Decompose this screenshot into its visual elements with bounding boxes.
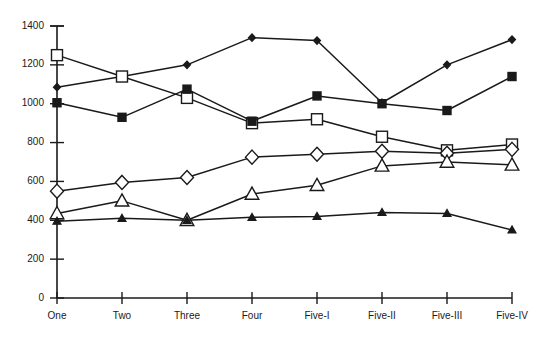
marker-open-diamond [246,150,259,164]
x-tick-label: One [48,310,67,321]
marker-open-square [182,92,193,103]
marker-small-filled-triangle [248,214,256,221]
y-tick-label: 1000 [22,97,45,108]
marker-small-filled-triangle [443,210,451,217]
marker-small-filled-diamond [184,61,191,68]
marker-small-filled-triangle [378,209,386,216]
marker-filled-square [313,92,321,100]
marker-open-diamond [51,184,64,198]
marker-open-diamond [181,171,194,185]
y-tick-label: 600 [27,175,44,186]
x-tick-label: Five-IV [496,310,528,321]
marker-open-square [117,71,128,82]
y-tick-label: 0 [38,292,44,303]
marker-open-diamond [311,147,324,161]
series-open-square-line [57,55,512,150]
marker-open-triangle [115,194,129,206]
x-tick-label: Five-I [305,310,330,321]
x-tick-label: Two [113,310,132,321]
marker-open-square [52,50,63,61]
x-tick-label: Five-III [432,310,463,321]
series-group [50,34,519,233]
series-small-filled-triangle [53,209,516,233]
marker-filled-square [378,100,386,108]
y-tick-label-group: 0200400600800100012001400 [22,20,45,303]
y-tick-label: 1200 [22,58,45,69]
marker-filled-square [183,85,191,93]
x-tick-label: Five-II [368,310,396,321]
marker-open-square [312,114,323,125]
marker-filled-square [508,73,516,81]
y-tick-label: 800 [27,136,44,147]
marker-small-filled-triangle [508,226,516,233]
marker-small-filled-triangle [118,215,126,222]
marker-filled-square [53,99,61,107]
line-chart: 0200400600800100012001400 OneTwoThreeFou… [0,0,548,344]
marker-small-filled-diamond [54,84,61,91]
y-tick-label: 1400 [22,20,45,31]
marker-small-filled-triangle [313,213,321,220]
chart-plot-area: 0200400600800100012001400 OneTwoThreeFou… [0,0,548,344]
series-small-filled-diamond-line [57,38,512,103]
series-small-filled-diamond [54,34,516,106]
y-tick-label: 200 [27,253,44,264]
x-tick-label: Three [174,310,201,321]
marker-filled-square [248,117,256,125]
marker-open-diamond [376,144,389,158]
marker-small-filled-diamond [249,34,256,41]
marker-open-diamond [116,175,129,189]
marker-open-square [377,131,388,142]
marker-small-filled-diamond [509,36,516,43]
marker-filled-square [443,107,451,115]
marker-open-triangle [440,155,454,167]
marker-filled-square [118,113,126,121]
x-tick-label: Four [242,310,263,321]
x-tick-label-group: OneTwoThreeFourFive-IFive-IIFive-IIIFive… [48,310,529,321]
series-open-triangle-line [57,162,512,220]
marker-small-filled-diamond [444,61,451,68]
y-tick-label: 400 [27,214,44,225]
